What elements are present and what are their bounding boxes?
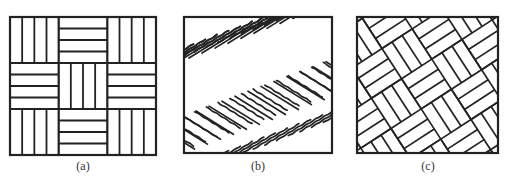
herringbone-parquet-drawing	[183, 16, 333, 154]
panel-a-basketweave	[9, 16, 157, 156]
caption-c: (c)	[408, 159, 448, 174]
caption-a: (a)	[63, 159, 103, 174]
caption-b: (b)	[238, 159, 278, 174]
basketweave-parquet-drawing	[9, 16, 157, 156]
diagonal-basketweave-parquet-drawing	[356, 16, 499, 154]
panel-b-herringbone	[183, 16, 333, 154]
panel-c-diagonal-basketweave	[356, 16, 499, 154]
